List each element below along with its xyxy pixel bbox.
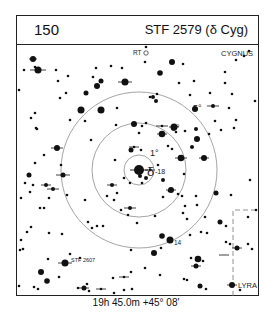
star — [144, 267, 147, 270]
star — [20, 239, 23, 242]
star — [247, 243, 250, 246]
star — [82, 286, 87, 291]
star — [27, 173, 32, 178]
star — [96, 225, 99, 228]
star — [200, 231, 203, 234]
star — [161, 125, 164, 128]
star — [192, 106, 198, 112]
star — [156, 93, 159, 96]
star — [249, 179, 252, 182]
star — [67, 75, 70, 78]
star — [206, 232, 209, 235]
star — [20, 197, 23, 200]
star — [159, 274, 162, 277]
variable-star-label: RT — [133, 49, 142, 56]
star — [182, 212, 185, 215]
star — [184, 130, 187, 133]
circle-label: 1° — [150, 148, 159, 158]
star — [159, 131, 166, 138]
star — [195, 195, 198, 198]
star — [204, 216, 207, 219]
star — [34, 112, 37, 115]
star — [175, 131, 178, 134]
star — [88, 290, 91, 293]
star — [189, 94, 192, 97]
star — [30, 117, 33, 120]
star — [194, 264, 199, 269]
star — [193, 80, 196, 83]
star — [58, 276, 61, 279]
star — [138, 132, 141, 135]
star — [32, 184, 35, 187]
star — [33, 286, 36, 289]
star — [247, 216, 250, 219]
stars — [18, 46, 258, 295]
star — [39, 207, 42, 210]
star — [43, 207, 46, 210]
star — [99, 79, 104, 84]
star — [181, 195, 184, 198]
star — [160, 247, 163, 250]
star — [151, 95, 155, 99]
star — [121, 67, 124, 70]
star — [23, 69, 26, 72]
star — [84, 120, 87, 123]
star — [177, 193, 180, 196]
star — [171, 124, 178, 131]
star — [91, 227, 94, 230]
star — [151, 250, 157, 256]
star — [112, 277, 115, 280]
star — [95, 67, 98, 70]
star — [218, 220, 223, 225]
star — [30, 56, 36, 62]
star — [136, 222, 139, 225]
star — [18, 89, 21, 92]
star — [36, 128, 39, 131]
star — [190, 257, 193, 260]
star — [116, 192, 119, 195]
star — [157, 164, 160, 167]
star — [44, 278, 50, 284]
star — [195, 256, 202, 263]
star — [209, 92, 212, 95]
star — [106, 195, 109, 198]
star — [123, 177, 126, 180]
star — [224, 71, 227, 74]
star — [229, 282, 235, 288]
center-star-magnitude: -18 — [155, 168, 165, 175]
star — [144, 61, 147, 64]
star — [35, 67, 42, 74]
star — [110, 65, 113, 68]
star — [235, 59, 238, 62]
star — [224, 82, 227, 85]
star — [190, 145, 194, 149]
star — [94, 83, 100, 89]
star — [149, 96, 152, 99]
star — [51, 187, 55, 191]
star — [189, 234, 192, 237]
star — [161, 178, 165, 182]
constellation-label-cygnus: CYGNUS — [221, 49, 253, 58]
star — [90, 139, 93, 142]
star — [62, 260, 69, 267]
star — [141, 125, 144, 128]
star — [228, 107, 231, 110]
star — [233, 127, 236, 130]
star — [127, 214, 130, 217]
star — [87, 221, 90, 224]
star — [65, 92, 68, 95]
star — [59, 97, 62, 100]
star — [169, 59, 175, 65]
star — [24, 182, 27, 185]
star — [157, 70, 163, 76]
star — [129, 148, 134, 153]
star — [84, 199, 87, 202]
star — [186, 218, 189, 221]
star — [84, 91, 89, 96]
star — [92, 76, 95, 79]
star — [231, 93, 234, 96]
star — [69, 253, 72, 256]
star — [255, 209, 258, 212]
comparison-star-label: 14 — [174, 239, 182, 246]
star — [230, 194, 233, 197]
